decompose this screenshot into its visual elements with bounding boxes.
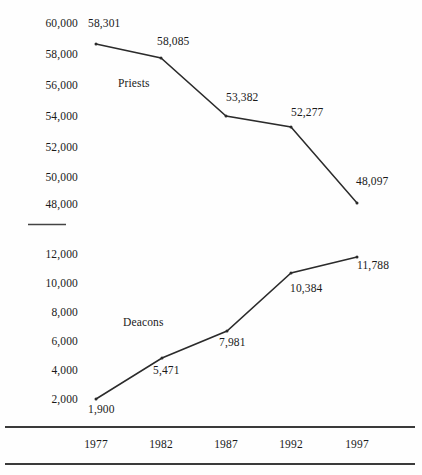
lower-ytick-8000: 8,000 [0, 307, 78, 319]
priests-point-1977 [95, 43, 98, 46]
upper-ytick-58000: 58,000 [0, 49, 78, 61]
priests-point-1997 [356, 202, 359, 205]
upper-ytick-60000: 60,000 [0, 18, 78, 30]
lower-ytick-6000: 6,000 [0, 336, 78, 348]
xtick-1982: 1982 [131, 439, 191, 451]
priests-label-1992: 52,277 [291, 107, 324, 119]
xtick-1997: 1997 [327, 439, 387, 451]
priests-label-1997: 48,097 [356, 176, 389, 188]
deacons-label-1977: 1,900 [88, 404, 115, 416]
lower-ytick-2000: 2,000 [0, 394, 78, 406]
deacons-label-1982: 5,471 [153, 365, 180, 377]
deacons-label-1997: 11,788 [357, 260, 389, 272]
lower-ytick-4000: 4,000 [0, 365, 78, 377]
upper-ytick-54000: 54,000 [0, 111, 78, 123]
series-label-priests: Priests [118, 78, 150, 90]
deacons-point-1992 [290, 272, 293, 275]
upper-ytick-48000: 48,000 [0, 199, 78, 211]
xtick-1987: 1987 [196, 439, 256, 451]
lower-ytick-10000: 10,000 [0, 278, 78, 290]
priests-label-1982: 58,085 [157, 36, 190, 48]
upper-ytick-56000: 56,000 [0, 80, 78, 92]
upper-ytick-52000: 52,000 [0, 142, 78, 154]
priests-point-1992 [290, 126, 293, 129]
priests-label-1977: 58,301 [88, 18, 121, 30]
deacons-label-1987: 7,981 [219, 337, 246, 349]
priests-label-1987: 53,382 [226, 92, 259, 104]
deacons-point-1982 [161, 357, 164, 360]
deacons-point-1977 [95, 398, 98, 401]
deacons-point-1987 [226, 330, 229, 333]
chart-figure: 60,000 58,000 56,000 54,000 52,000 50,00… [0, 0, 422, 475]
upper-ytick-50000: 50,000 [0, 172, 78, 184]
xtick-1977: 1977 [66, 439, 126, 451]
lower-ytick-12000: 12,000 [0, 249, 78, 261]
series-label-deacons: Deacons [123, 317, 164, 329]
priests-point-1982 [160, 57, 163, 60]
priests-point-1987 [225, 115, 228, 118]
deacons-label-1992: 10,384 [290, 283, 323, 295]
priests-line [96, 44, 357, 203]
xtick-1992: 1992 [261, 439, 321, 451]
